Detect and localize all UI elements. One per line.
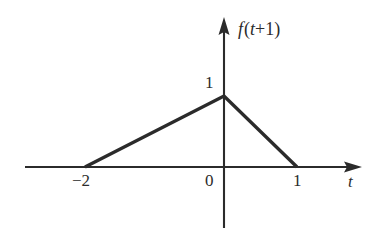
plus-one: +1 [255, 19, 274, 39]
signal-waveform-triangle [85, 96, 297, 167]
plot-canvas [0, 0, 383, 235]
x-axis-tick-label-minus-2: −2 [72, 172, 90, 189]
figure-container: f(t+1) 1 0 −2 1 t [0, 0, 383, 235]
y-axis-tick-label-1: 1 [205, 74, 214, 91]
x-axis-tick-label-1: 1 [293, 172, 302, 189]
origin-tick-label-0: 0 [205, 172, 214, 189]
close-paren: ) [274, 19, 280, 39]
x-axis-variable-label: t [348, 173, 353, 190]
y-axis-function-label: f(t+1) [238, 20, 280, 38]
